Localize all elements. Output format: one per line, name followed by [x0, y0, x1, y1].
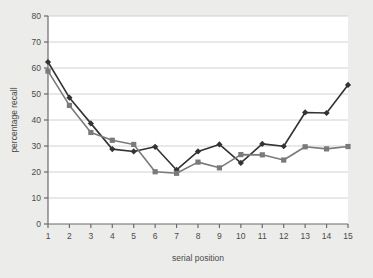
marker-series-square-12 — [281, 157, 286, 162]
x-axis-tick-labels: 123456789101112131415 — [46, 231, 353, 241]
x-tick-label-15: 15 — [343, 231, 353, 241]
marker-series-square-4 — [110, 138, 115, 143]
marker-series-square-8 — [195, 160, 200, 165]
x-tick-label-7: 7 — [174, 231, 179, 241]
x-tick-label-11: 11 — [258, 231, 267, 241]
y-tick-label-20: 20 — [32, 167, 42, 177]
marker-series-square-3 — [88, 130, 93, 135]
marker-series-square-13 — [303, 144, 308, 149]
marker-series-square-7 — [174, 171, 179, 176]
marker-series-square-11 — [260, 152, 265, 157]
x-tick-label-5: 5 — [131, 231, 136, 241]
x-tick-label-13: 13 — [300, 231, 310, 241]
x-tick-label-6: 6 — [153, 231, 158, 241]
marker-series-square-10 — [238, 152, 243, 157]
x-tick-label-4: 4 — [110, 231, 115, 241]
y-tick-label-50: 50 — [32, 89, 42, 99]
marker-series-square-5 — [131, 142, 136, 147]
x-tick-label-10: 10 — [236, 231, 246, 241]
marker-series-square-14 — [324, 146, 329, 151]
x-tick-label-1: 1 — [46, 231, 51, 241]
x-tick-label-2: 2 — [67, 231, 72, 241]
y-tick-label-40: 40 — [32, 115, 42, 125]
x-axis-title: serial position — [172, 253, 224, 263]
y-tick-label-70: 70 — [32, 37, 42, 47]
y-tick-label-10: 10 — [32, 193, 42, 203]
y-axis-tick-labels: 01020304050607080 — [32, 11, 42, 229]
marker-series-square-2 — [67, 103, 72, 108]
marker-series-square-6 — [153, 169, 158, 174]
chart-container: 01020304050607080 123456789101112131415 … — [0, 0, 373, 278]
y-axis-title: percentage recall — [9, 87, 19, 152]
marker-series-square-1 — [45, 69, 50, 74]
y-tick-label-80: 80 — [32, 11, 42, 21]
serial-position-line-chart: 01020304050607080 123456789101112131415 … — [0, 0, 373, 278]
x-tick-label-14: 14 — [322, 231, 332, 241]
y-tick-label-0: 0 — [36, 219, 41, 229]
x-tick-label-8: 8 — [196, 231, 201, 241]
marker-series-square-9 — [217, 165, 222, 170]
x-tick-label-12: 12 — [279, 231, 289, 241]
x-tick-label-9: 9 — [217, 231, 222, 241]
y-tick-label-60: 60 — [32, 63, 42, 73]
y-tick-label-30: 30 — [32, 141, 42, 151]
marker-series-square-15 — [345, 144, 350, 149]
x-tick-label-3: 3 — [88, 231, 93, 241]
